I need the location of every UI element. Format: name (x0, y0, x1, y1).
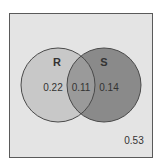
set-r-label: R (53, 56, 61, 68)
s-only-value: 0.14 (99, 82, 119, 93)
r-only-value: 0.22 (43, 82, 63, 93)
venn-diagram: R S 0.22 0.11 0.14 0.53 (0, 0, 161, 168)
set-s-label: S (100, 56, 107, 68)
outside-value: 0.53 (124, 135, 144, 146)
intersection-value: 0.11 (72, 82, 91, 93)
